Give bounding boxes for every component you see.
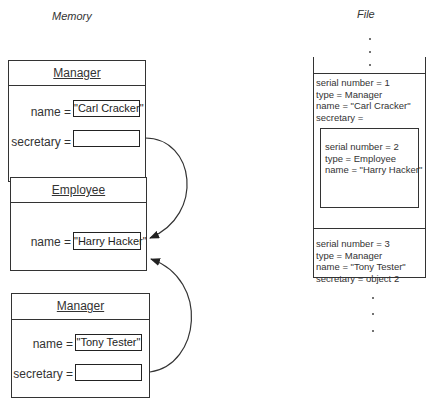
record-separator xyxy=(313,73,426,74)
field-value-name: "Harry Hacker" xyxy=(73,232,141,250)
field-label-secretary: secretary = xyxy=(12,367,73,381)
record-line: secretary = xyxy=(316,112,363,124)
memory-object-manager-tony: Manager name = "Tony Tester" secretary = xyxy=(11,293,150,398)
field-value-name: "Carl Cracker" xyxy=(73,100,140,117)
ellipsis-dot xyxy=(369,38,371,40)
ellipsis-dot xyxy=(369,51,371,53)
record-line: name = "Harry Hacker" xyxy=(325,164,422,176)
field-value-secretary xyxy=(75,364,142,381)
record-line: serial number = 2 xyxy=(325,141,399,153)
record-line: type = Employee xyxy=(325,153,396,165)
ellipsis-dot xyxy=(369,64,371,66)
record-line: serial number = 1 xyxy=(316,77,390,89)
memory-object-employee-harry: Employee name = "Harry Hacker" xyxy=(10,177,147,271)
ellipsis-dot xyxy=(372,330,374,332)
field-label-name: name = xyxy=(13,105,71,119)
class-name: Manager xyxy=(9,61,145,86)
record-line: type = Manager xyxy=(316,89,382,101)
class-name: Employee xyxy=(11,178,146,203)
record-line: type = Manager xyxy=(316,250,382,262)
field-label-secretary: secretary = xyxy=(9,135,71,149)
record-line: secretary = object 2 xyxy=(316,273,399,285)
field-label-name: name = xyxy=(16,337,73,351)
field-value-secretary xyxy=(73,130,140,147)
record-separator xyxy=(313,228,426,229)
ellipsis-dot xyxy=(372,297,374,299)
field-label-name: name = xyxy=(15,235,71,249)
record-line: serial number = 3 xyxy=(316,238,390,250)
record-line: name = "Carl Cracker" xyxy=(316,100,411,112)
ellipsis-dot xyxy=(372,313,374,315)
file-nested-record-2: serial number = 2 type = Employee name =… xyxy=(320,128,419,208)
record-line: name = "Tony Tester" xyxy=(316,261,406,273)
file-left-edge xyxy=(313,57,314,277)
memory-object-manager-carl: Manager name = "Carl Cracker" secretary … xyxy=(8,60,146,182)
class-name: Manager xyxy=(12,294,149,320)
file-right-edge xyxy=(425,57,426,277)
field-value-name: "Tony Tester" xyxy=(75,334,142,351)
